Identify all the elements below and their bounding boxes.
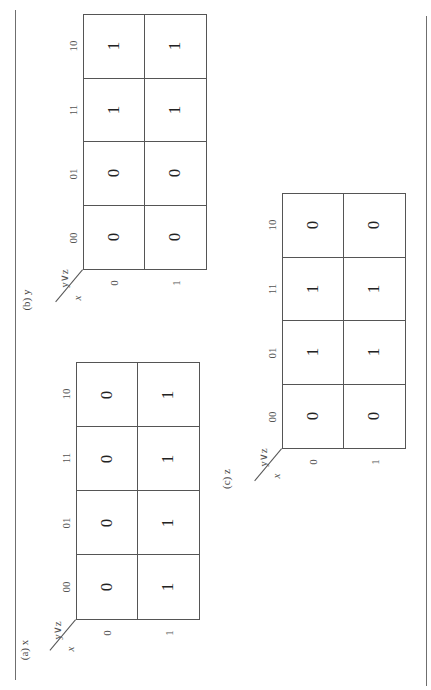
kmap-cell: 1 [283,258,344,322]
kmap-cell: 1 [344,258,405,322]
kmap-c: 0 0 1 1 1 1 0 0 10 11 01 00 0 1 y∨z x (c… [282,193,406,449]
corner-col-var: y∨z [58,269,71,287]
kmap-grid: 0 1 0 1 0 1 0 1 [76,362,200,620]
col-label: 11 [67,100,79,120]
row-label: 1 [170,277,182,289]
col-label: 10 [67,36,79,56]
corner-row-var: x [64,647,76,652]
corner-col-var: y∨z [257,448,270,466]
kmap-cell: 0 [344,194,405,258]
kmap-cell: 1 [283,321,344,385]
row-label: 0 [108,277,120,289]
kmap-cell: 1 [84,15,145,79]
kmap-cell: 1 [344,321,405,385]
caption-c: (c) z [220,469,232,489]
kmap-cell: 1 [145,15,206,79]
col-label: 10 [60,384,72,404]
kmap-cell: 0 [77,491,138,555]
col-label: 11 [60,448,72,468]
caption-a: (a) x [18,640,30,660]
col-label: 11 [266,279,278,299]
page-rule-right [426,16,427,686]
kmap-cell: 0 [77,363,138,427]
kmap-cell: 0 [77,427,138,491]
kmap-cell: 0 [77,555,138,619]
corner-row-var: x [71,296,83,301]
kmap-cell: 1 [84,79,145,143]
kmap-cell: 1 [138,555,199,619]
corner-row-var: x [270,474,282,479]
col-label: 00 [67,228,79,248]
corner-col-var: y∨z [51,621,64,639]
kmap-cell: 0 [84,206,145,270]
kmap-b: 1 1 1 1 0 0 0 0 10 11 01 00 0 1 y∨z x (b… [83,14,207,270]
kmap-cell: 1 [145,79,206,143]
kmap-cell: 0 [344,385,405,449]
col-label: 10 [266,215,278,235]
col-label: 00 [60,577,72,597]
kmap-cell: 0 [283,194,344,258]
row-label: 1 [369,456,381,468]
kmap-cell: 0 [145,142,206,206]
kmap-grid: 0 0 1 1 1 1 0 0 [282,193,406,449]
col-label: 01 [60,513,72,533]
kmap-cell: 1 [138,491,199,555]
col-label: 01 [67,164,79,184]
row-label: 1 [163,627,175,639]
row-label: 0 [307,456,319,468]
row-label: 0 [101,627,113,639]
kmap-cell: 0 [283,385,344,449]
kmap-a: 0 1 0 1 0 1 0 1 10 11 01 00 0 1 y∨z x (a… [76,362,200,620]
col-label: 00 [266,407,278,427]
page-rule-left [15,10,16,680]
kmap-cell: 0 [84,142,145,206]
kmap-cell: 1 [138,427,199,491]
kmap-cell: 0 [145,206,206,270]
caption-b: (b) y [20,289,32,310]
kmap-grid: 1 1 1 1 0 0 0 0 [83,14,207,270]
kmap-cell: 1 [138,363,199,427]
col-label: 01 [266,343,278,363]
